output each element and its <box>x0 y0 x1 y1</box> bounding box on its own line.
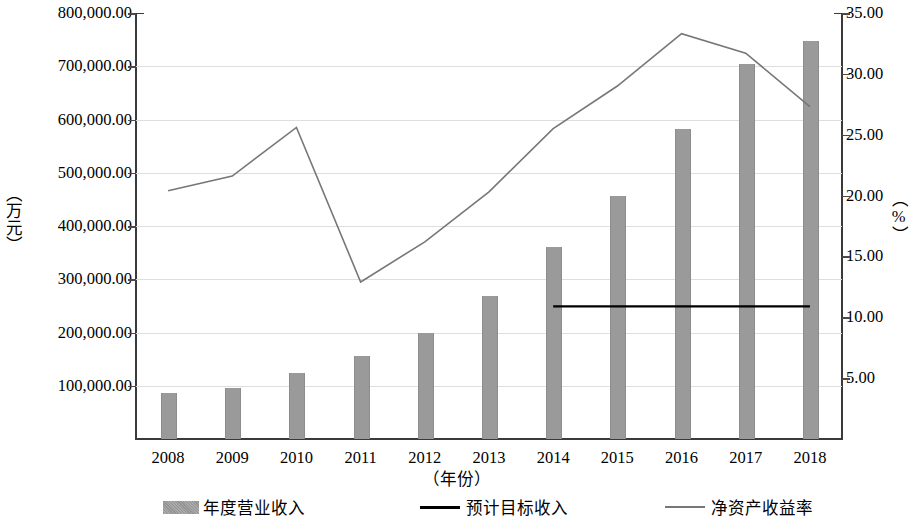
x-axis-tick-label: 2011 <box>329 448 393 468</box>
tick-mark <box>128 66 136 68</box>
x-axis-tick-label: 2017 <box>714 448 778 468</box>
x-axis-tick-label: 2018 <box>778 448 842 468</box>
y-axis-left-tick-label: 500,000.00 <box>58 165 132 181</box>
x-axis-tick-label: 2013 <box>457 448 521 468</box>
y-axis-right-tick-label: 35.00 <box>846 5 883 21</box>
y-axis-right-ticks: 5.0010.0015.0020.0025.0030.0035.00 <box>846 0 914 523</box>
legend-item-label: 年度营业收入 <box>203 495 305 519</box>
line-series-layer <box>136 13 842 439</box>
tick-mark <box>128 120 136 122</box>
tick-mark <box>842 378 850 380</box>
legend-item-label: 预计目标收入 <box>466 495 568 519</box>
x-axis-tick-label: 2016 <box>650 448 714 468</box>
y-axis-right-tick-label: 30.00 <box>846 66 883 82</box>
legend-item[interactable]: 净资产收益率 <box>665 494 813 520</box>
legend-line-swatch-icon <box>665 506 705 508</box>
tick-mark <box>128 279 136 281</box>
tick-mark <box>842 196 850 198</box>
y-axis-left-tick-label: 200,000.00 <box>58 325 132 341</box>
tick-mark <box>842 317 850 319</box>
y-axis-left-tick-label: 800,000.00 <box>58 5 132 21</box>
x-axis-tick-label: 2008 <box>136 448 200 468</box>
chart-legend: 年度营业收入预计目标收入净资产收益率 <box>0 494 914 522</box>
revenue-and-roe-combo-chart: （万元） （%） 100,000.00200,000.00300,000.004… <box>0 0 914 523</box>
y-axis-left-tick-label: 400,000.00 <box>58 218 132 234</box>
y-axis-right-tick-label: 5.00 <box>846 370 875 386</box>
x-axis-tick-label: 2015 <box>585 448 649 468</box>
tick-mark <box>128 226 136 228</box>
legend-bar-swatch-icon <box>163 501 199 514</box>
y-axis-left-tick-label: 100,000.00 <box>58 378 132 394</box>
y-axis-left-tick-label: 700,000.00 <box>58 58 132 74</box>
y-axis-left-title: （万元） <box>2 185 22 253</box>
legend-item-label: 净资产收益率 <box>711 495 813 519</box>
y-axis-right-tick-label: 15.00 <box>846 248 883 264</box>
tick-mark <box>842 135 850 137</box>
tick-mark <box>128 173 136 175</box>
plot-area <box>136 13 842 439</box>
y-axis-left-ticks: 100,000.00200,000.00300,000.00400,000.00… <box>22 0 132 523</box>
line-net-asset-return-rate <box>168 34 810 282</box>
tick-mark <box>842 256 850 258</box>
tick-mark <box>128 333 136 335</box>
tick-mark <box>128 13 136 15</box>
tick-mark <box>128 386 136 388</box>
x-axis-tick-label: 2009 <box>200 448 264 468</box>
y-axis-right-tick-label: 20.00 <box>846 188 883 204</box>
tick-mark <box>842 74 850 76</box>
y-axis-right-tick-label: 25.00 <box>846 127 883 143</box>
tick-mark <box>842 13 850 15</box>
legend-item[interactable]: 年度营业收入 <box>163 494 305 520</box>
y-axis-left-tick-label: 600,000.00 <box>58 112 132 128</box>
x-axis-title: （年份） <box>0 470 914 490</box>
y-axis-right-tick-label: 10.00 <box>846 309 883 325</box>
legend-line-swatch-icon <box>420 506 460 509</box>
x-axis-tick-label: 2010 <box>264 448 328 468</box>
y-axis-left-tick-label: 300,000.00 <box>58 271 132 287</box>
legend-item[interactable]: 预计目标收入 <box>420 494 568 520</box>
x-axis-tick-label: 2012 <box>393 448 457 468</box>
x-axis-tick-label: 2014 <box>521 448 585 468</box>
